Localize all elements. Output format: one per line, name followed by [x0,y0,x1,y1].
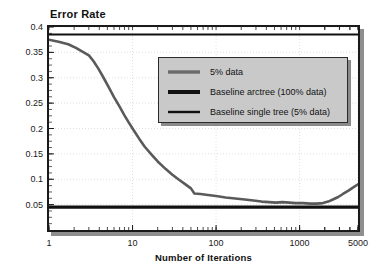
legend-swatch-baseline-single-tree [167,105,201,119]
legend-swatch-5-percent-data [167,65,201,79]
x-tick-label-0: 1 [46,238,51,248]
legend-swatch-baseline-arctree [167,85,201,99]
x-tick-label-3: 1000 [290,238,310,248]
chart-legend: 5% data Baseline arctree (100% data) Bas… [158,57,348,123]
legend-label-0: 5% data [210,67,243,77]
legend-item-2: Baseline single tree (5% data) [167,103,330,121]
chart-figure: Error Rate 0.050.10.150.20.250.30.350.4 … [0,0,386,277]
x-tick-label-4: 5000 [348,238,368,248]
legend-label-1: Baseline arctree (100% data) [210,87,327,97]
legend-item-0: 5% data [167,63,243,81]
legend-item-1: Baseline arctree (100% data) [167,83,327,101]
x-axis-ticks: 11010010005000 [0,0,386,277]
x-axis-label: Number of Iterations [47,252,360,263]
x-tick-label-2: 100 [209,238,224,248]
x-tick-label-1: 10 [128,238,138,248]
legend-label-2: Baseline single tree (5% data) [210,107,330,117]
